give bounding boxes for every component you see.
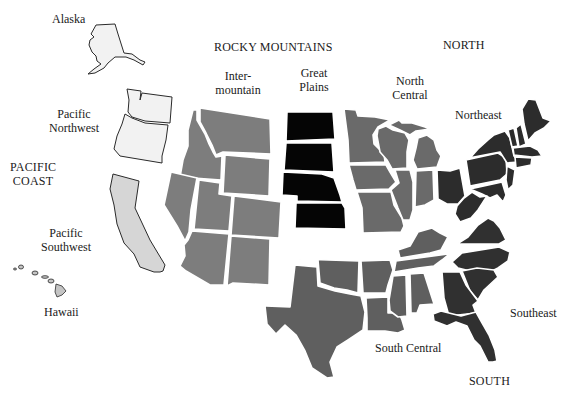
state-michigan-lp — [413, 135, 441, 169]
state-mississippi — [389, 275, 407, 317]
region-south-central — [265, 228, 452, 378]
label-rocky-mountains: ROCKY MOUNTAINS — [214, 40, 333, 54]
state-south-dakota — [284, 143, 334, 172]
region-north-central — [344, 109, 441, 233]
region-pacific-northwest — [114, 89, 172, 163]
region-hawaii — [14, 265, 67, 297]
state-ohio — [437, 168, 465, 204]
state-indiana — [415, 170, 434, 207]
region-pacific-southwest — [110, 174, 165, 272]
state-connecticut-ri — [515, 157, 532, 168]
island-kauai — [19, 265, 24, 269]
label-south: SOUTH — [469, 374, 510, 388]
label-southeast: Southeast — [510, 306, 557, 320]
state-nebraska — [282, 172, 342, 202]
state-washington — [127, 89, 172, 123]
region-great-plains — [282, 112, 346, 229]
state-massachusetts — [513, 146, 542, 157]
state-virginia — [457, 218, 506, 244]
label-northeast: Northeast — [455, 108, 502, 122]
label-south-central: South Central — [375, 341, 441, 355]
state-arkansas — [361, 260, 393, 293]
region-intermountain — [164, 108, 281, 286]
state-wyoming — [223, 155, 270, 196]
state-new-mexico — [227, 236, 270, 286]
label-intermountain: Inter- mountain — [208, 69, 268, 97]
state-maine — [522, 99, 551, 141]
label-alaska: Alaska — [52, 12, 85, 26]
state-new-jersey — [506, 166, 515, 190]
label-pacific-coast: PACIFIC COAST — [10, 160, 56, 188]
state-iowa — [349, 165, 396, 190]
us-regions-map — [0, 0, 571, 397]
label-pacific-southwest: Pacific Southwest — [36, 226, 96, 254]
region-alaska — [88, 24, 145, 74]
label-north-central: North Central — [385, 74, 435, 102]
island-niihau — [14, 268, 17, 270]
island-oahu — [32, 271, 38, 275]
state-kansas — [295, 203, 346, 229]
label-north: NORTH — [443, 38, 485, 52]
state-alaska — [88, 24, 145, 74]
state-florida — [433, 311, 497, 362]
state-colorado — [231, 196, 281, 238]
label-great-plains: Great Plains — [292, 66, 336, 94]
state-kentucky — [398, 228, 448, 258]
label-pacific-northwest: Pacific Northwest — [43, 107, 105, 135]
state-arizona — [180, 231, 229, 285]
state-california — [110, 174, 165, 272]
state-north-dakota — [286, 112, 335, 141]
state-alabama — [410, 273, 434, 313]
island-big-island — [55, 284, 66, 297]
label-hawaii: Hawaii — [44, 305, 79, 319]
island-molokai — [42, 276, 49, 279]
island-maui — [48, 279, 54, 283]
